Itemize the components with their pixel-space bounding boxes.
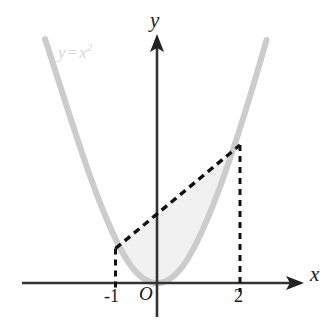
curve-equation-operator: = [66,43,80,62]
curve-equation-label: y=x2 [58,43,92,63]
x-tick-label-2: 2 [234,286,243,307]
curve-equation-variable: x [79,43,87,62]
graph-svg [0,0,333,322]
shaded-region [116,145,241,283]
x-tick-label-neg1: -1 [104,286,119,307]
y-axis-label: y [150,8,159,33]
curve-equation-exponent: 2 [87,41,93,53]
figure-canvas: y x O -1 2 y=x2 [0,0,333,322]
curve-equation-lhs: y [58,43,66,62]
x-axis-label: x [310,262,319,287]
origin-label: O [139,283,153,305]
